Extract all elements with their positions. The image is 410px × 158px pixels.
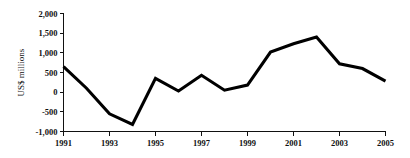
x-axis-tick-marks <box>64 132 386 136</box>
y-tick-label: 1,500 <box>38 28 57 38</box>
y-tick-label: 0 <box>53 87 57 97</box>
x-tick-label: 1991 <box>55 138 72 148</box>
y-axis-title: US$ millions <box>16 48 26 96</box>
y-tick-label: -1,000 <box>36 127 58 137</box>
data-series-line <box>64 37 386 124</box>
y-tick-label: 1,000 <box>38 48 57 58</box>
x-tick-label: 2003 <box>331 138 348 148</box>
chart-canvas: 2,0001,5001,0005000-500-1,000 1991199319… <box>0 0 410 158</box>
x-tick-label: 2001 <box>285 138 302 148</box>
y-tick-label: 500 <box>45 68 58 78</box>
x-tick-label: 2005 <box>377 138 394 148</box>
x-tick-label: 1997 <box>193 138 211 148</box>
y-tick-label: 2,000 <box>38 9 57 19</box>
y-tick-label: -500 <box>42 107 58 117</box>
x-axis-tick-labels: 19911993199519971999200120032005 <box>55 138 394 148</box>
y-axis-tick-labels: 2,0001,5001,0005000-500-1,000 <box>36 9 58 137</box>
line-chart: 2,0001,5001,0005000-500-1,000 1991199319… <box>0 0 410 158</box>
x-tick-label: 1999 <box>239 138 256 148</box>
x-tick-label: 1993 <box>101 138 118 148</box>
x-tick-label: 1995 <box>147 138 164 148</box>
